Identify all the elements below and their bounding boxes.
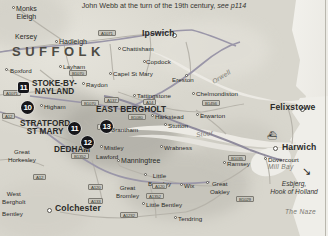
- ferry-boat-icon: ⛴: [267, 132, 277, 140]
- road-number-shield: A133: [88, 198, 103, 204]
- place-label: Wrabness: [164, 144, 192, 151]
- map-canvas[interactable]: John Webb at the turn of the 19th centur…: [0, 0, 328, 236]
- place-label: Hadleigh: [59, 38, 87, 45]
- place-label: Lawford: [96, 153, 118, 160]
- place-label: Manningtree: [121, 157, 160, 164]
- map-marker-11[interactable]: 11: [68, 122, 81, 135]
- place-label: West Bergholt: [2, 190, 25, 205]
- place-label: Copdock: [146, 58, 171, 65]
- road-number-shield: A1232: [120, 212, 138, 218]
- road-number-shield: B1070: [81, 100, 99, 106]
- map-marker-13[interactable]: 13: [100, 120, 113, 133]
- road-number-shield: A120: [152, 183, 167, 189]
- water-feature-label: The Naze: [285, 208, 316, 215]
- place-label: Tattingstone: [137, 92, 171, 99]
- map-right-border: [325, 0, 326, 236]
- place-label: Tendring: [178, 215, 202, 222]
- place-label: Mistley: [104, 144, 124, 151]
- caption-main-text: John Webb at the turn of the 19th centur…: [82, 1, 216, 10]
- map-marker-12[interactable]: 12: [81, 136, 94, 149]
- place-label: Ereston: [172, 76, 194, 83]
- road-number-shield: A14: [143, 99, 156, 105]
- road-number-shield: B1080: [128, 114, 146, 120]
- water-feature-label: Mill Bay: [268, 163, 293, 170]
- place-label: Boxford: [10, 67, 32, 74]
- place-label: EAST BERGHOLT: [96, 106, 166, 113]
- map-marker-11[interactable]: 11: [18, 82, 29, 93]
- road-number-shield: A12: [2, 113, 15, 119]
- place-label: STRATFORD ST MARY: [20, 120, 70, 135]
- place-label: Ipswich: [142, 30, 175, 37]
- place-label: Felixstowe: [270, 104, 315, 111]
- place-label: Brantham: [111, 126, 138, 133]
- road-number-shield: B1029: [236, 196, 254, 202]
- road-number-shield: B1352: [71, 153, 89, 159]
- road-number-shield: B1456: [202, 100, 220, 106]
- ferry-destinations-label: Esbjerg, Hook of Holland: [262, 180, 326, 196]
- road-number-shield: A120: [88, 184, 103, 190]
- road-number-shield: A1071: [98, 30, 116, 36]
- place-label: Dovercourt: [268, 156, 299, 163]
- county-label-suffolk: SUFFOLK: [12, 48, 105, 55]
- place-label: Little Bentley: [146, 201, 182, 208]
- map-caption: John Webb at the turn of the 19th centur…: [0, 1, 328, 10]
- place-label: Chattisham: [122, 45, 154, 52]
- place-label: STOKE-BY- NAYLAND: [32, 80, 77, 95]
- place-label: Harwich: [282, 144, 316, 151]
- place-label: Bentley: [2, 210, 23, 217]
- ferry-direction-arrow-icon: ↘: [302, 166, 311, 177]
- place-label: Raydon: [86, 81, 108, 88]
- place-label: Erwarton: [200, 112, 225, 119]
- place-label: Monks Eleigh: [16, 5, 37, 20]
- map-marker-10[interactable]: 10: [21, 101, 34, 114]
- place-label: Higham: [44, 103, 66, 110]
- place-label: Capel St Mary: [113, 70, 153, 77]
- road-number-shield: B1070: [69, 70, 87, 76]
- road-number-shield: B1035: [228, 155, 246, 161]
- road-number-shield: A137: [104, 97, 119, 103]
- road-number-shield: A12: [33, 174, 46, 180]
- place-label: Wix: [184, 182, 194, 189]
- place-label: Colchester: [55, 205, 101, 212]
- place-label: Kersey: [15, 33, 37, 40]
- place-label: Layham: [63, 63, 85, 70]
- place-label: Great Horkesley: [8, 148, 36, 163]
- place-label: Great Oakley: [210, 180, 230, 195]
- place-label: Harkstead: [155, 113, 184, 120]
- road-number-shield: A1352: [146, 193, 164, 199]
- caption-page-reference: see p114: [217, 1, 246, 10]
- place-label: Great Bromley: [116, 184, 139, 199]
- place-label: Stutton: [168, 122, 188, 129]
- place-label: Chelmondiston: [196, 90, 238, 97]
